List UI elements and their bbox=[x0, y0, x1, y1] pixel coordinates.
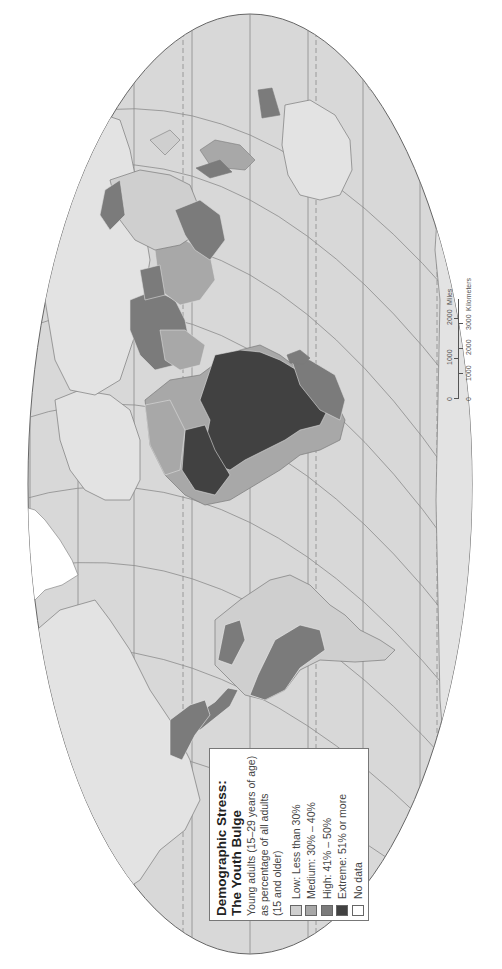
legend-label-medium: Medium: 30% – 40% bbox=[305, 802, 317, 899]
scale-bar-content: 0 1000 2000 Miles 0 1000 2000 3000 Kilom… bbox=[438, 270, 482, 405]
swatch-high bbox=[321, 905, 333, 916]
scale-tick bbox=[454, 318, 459, 319]
legend-subtitle-line2: as percentage of all adults bbox=[258, 755, 270, 916]
scale-km-1000: 1000 bbox=[465, 365, 472, 381]
legend-item-no-data: No data bbox=[350, 755, 366, 916]
scale-miles-1000: 1000 bbox=[446, 349, 453, 365]
swatch-medium bbox=[305, 905, 317, 916]
scale-tick bbox=[454, 358, 459, 359]
legend-title-line1: Demographic Stress: bbox=[214, 755, 229, 916]
swatch-low bbox=[290, 905, 302, 916]
scale-km-unit: Kilometers bbox=[465, 278, 472, 311]
legend-item-low: Low: Less than 30% bbox=[288, 755, 304, 916]
legend-title-line2: The Youth Bulge bbox=[229, 755, 244, 916]
scale-tick bbox=[458, 348, 463, 349]
scale-line bbox=[458, 299, 459, 399]
swatch-no-data bbox=[352, 905, 364, 916]
legend-label-high: High: 41% – 50% bbox=[321, 818, 333, 899]
legend-label-no-data: No data bbox=[352, 862, 364, 899]
legend-item-medium: Medium: 30% – 40% bbox=[304, 755, 320, 916]
scale-km-3000: 3000 bbox=[465, 314, 472, 330]
map-legend: Demographic Stress: The Youth Bulge Youn… bbox=[209, 748, 369, 921]
scale-tick bbox=[454, 398, 459, 399]
legend-item-extreme: Extreme: 51% or more bbox=[335, 755, 351, 916]
scale-miles-0: 0 bbox=[446, 397, 453, 401]
scale-tick bbox=[458, 323, 463, 324]
legend-content: Demographic Stress: The Youth Bulge Youn… bbox=[210, 749, 370, 922]
legend-item-high: High: 41% – 50% bbox=[319, 755, 335, 916]
legend-label-extreme: Extreme: 51% or more bbox=[336, 794, 348, 899]
swatch-extreme bbox=[336, 905, 348, 916]
scale-miles-2000: 2000 bbox=[446, 309, 453, 325]
legend-items: Low: Less than 30% Medium: 30% – 40% Hig… bbox=[288, 755, 366, 916]
scale-bar: 0 1000 2000 Miles 0 1000 2000 3000 Kilom… bbox=[438, 270, 482, 405]
scale-km-0: 0 bbox=[465, 397, 472, 401]
antarctica bbox=[435, 170, 480, 780]
legend-subtitle-line3: (15 and older) bbox=[271, 755, 283, 916]
scale-km-2000: 2000 bbox=[465, 339, 472, 355]
legend-label-low: Low: Less than 30% bbox=[290, 804, 302, 899]
scale-tick bbox=[458, 373, 463, 374]
legend-subtitle-line1: Young adults (15–29 years of age) bbox=[245, 755, 257, 916]
scale-miles-unit: Miles bbox=[446, 289, 453, 305]
